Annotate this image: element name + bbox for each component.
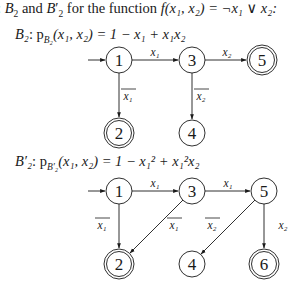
edge-5-4-label: x₂ [206,219,216,231]
node-3-label: 3 [188,51,197,70]
node-1-label: 1 [115,51,124,70]
edge-1-3-label: x₁ [149,177,159,189]
node-6-label: 6 [260,255,269,274]
graph-b2prime-labels: 1 3 5 2 4 6 x₁ x₁ x₁ x₁ x₂ x₂ [95,177,288,274]
edge-3-4-label: x₂ [195,90,205,102]
edge-3-2-label: x₁ [168,219,178,231]
graph-b2-labels: 1 3 5 2 4 x₁ x₂ x₁ x₂ [115,46,267,143]
edge-3-5-label: x₁ [222,177,232,189]
node-4-label: 4 [188,124,197,143]
node-5-label: 5 [258,51,267,70]
node-4-label: 4 [188,255,197,274]
automata-diagrams: 1 3 5 2 4 x₁ x₂ x₁ x₂ 1 3 5 2 4 6 x₁ [0,0,299,302]
node-5-label: 5 [260,182,269,201]
edge-1-3-label: x₁ [149,46,159,58]
edge-1-2-label: x₁ [122,90,132,102]
node-2-label: 2 [115,255,124,274]
node-1-label: 1 [115,182,124,201]
node-3-label: 3 [188,182,197,201]
edge-5-6-label: x₂ [277,219,287,231]
node-2-label: 2 [115,124,124,143]
edge-1-2-label: x₁ [96,219,106,231]
edge-3-5-label: x₂ [221,46,231,58]
